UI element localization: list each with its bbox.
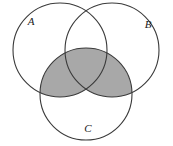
- venn-diagram-figure: A B C: [0, 0, 173, 146]
- set-label-b: B: [145, 18, 152, 30]
- set-label-c: C: [84, 122, 92, 134]
- set-label-a: A: [27, 15, 35, 27]
- venn-diagram-canvas: A B C: [0, 0, 173, 146]
